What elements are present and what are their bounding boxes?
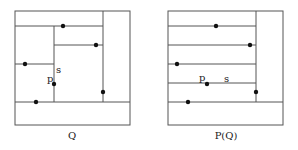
outer-box xyxy=(168,11,283,125)
diagram-q: psQ xyxy=(15,11,130,141)
point-marker xyxy=(34,100,38,104)
point-marker xyxy=(23,62,27,66)
point-marker xyxy=(248,43,252,47)
point-marker xyxy=(214,24,218,28)
point-marker xyxy=(94,43,98,47)
point-marker xyxy=(61,24,65,28)
diagram-caption: Q xyxy=(68,130,76,141)
point-label-p: p xyxy=(199,72,205,83)
point-marker xyxy=(205,82,209,86)
point-label-p: p xyxy=(47,73,53,84)
point-marker xyxy=(254,90,258,94)
point-marker xyxy=(186,100,190,104)
point-label-s: s xyxy=(56,64,61,75)
point-marker xyxy=(101,90,105,94)
diagram-p-of-q: psP(Q) xyxy=(168,11,283,141)
point-marker xyxy=(175,62,179,66)
diagram-canvas: psQ psP(Q) xyxy=(0,0,298,150)
diagram-caption: P(Q) xyxy=(215,130,238,141)
point-label-s: s xyxy=(224,73,229,84)
outer-box xyxy=(15,11,130,125)
